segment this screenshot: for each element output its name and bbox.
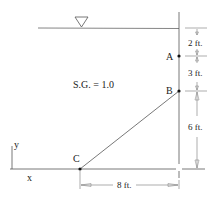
point-c-marker xyxy=(78,167,81,170)
point-c-label: C xyxy=(73,153,80,164)
hydrostatic-gate-diagram: A B C S.G. = 1.0 2 ft. 3 ft. 6 ft. 8 ft.… xyxy=(0,0,221,201)
dim-label-6ft: 6 ft. xyxy=(188,122,203,132)
point-a-marker xyxy=(177,54,180,57)
free-surface-triangle-icon xyxy=(75,17,88,27)
point-b-marker xyxy=(177,89,180,92)
x-axis-label: x xyxy=(27,172,32,183)
y-axis-label: y xyxy=(14,139,19,150)
inclined-gate-bc xyxy=(80,91,179,169)
dim-label-8ft: 8 ft. xyxy=(117,180,132,190)
dim-label-2ft: 2 ft. xyxy=(188,38,203,48)
point-b-label: B xyxy=(166,85,173,96)
point-a-label: A xyxy=(166,51,174,62)
specific-gravity-label: S.G. = 1.0 xyxy=(73,79,114,90)
water-surface-line xyxy=(38,28,179,29)
dim-label-3ft: 3 ft. xyxy=(188,68,203,78)
